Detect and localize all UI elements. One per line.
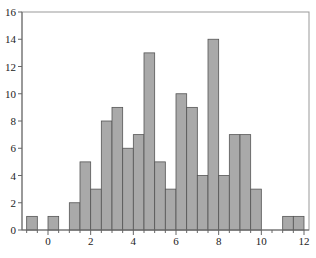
x-tick-label: 8 <box>216 235 222 247</box>
histogram-bar <box>229 135 240 230</box>
histogram-bar <box>112 107 123 230</box>
histogram-bar <box>91 189 102 230</box>
histogram-bar <box>165 189 176 230</box>
y-tick-label: 14 <box>5 33 17 45</box>
y-axis: 0246810121416 <box>5 6 22 236</box>
histogram-bar <box>144 53 155 230</box>
histogram-bar <box>293 216 304 230</box>
histogram-bar <box>80 162 91 230</box>
histogram-bar <box>133 135 144 230</box>
histogram-bar <box>155 162 166 230</box>
histogram-bar <box>283 216 294 230</box>
histogram-chart: 024681012 0246810121416 <box>0 0 316 258</box>
x-tick-label: 2 <box>88 235 94 247</box>
x-axis: 024681012 <box>22 230 310 247</box>
histogram-bars <box>27 39 304 230</box>
histogram-bar <box>69 203 80 230</box>
x-tick-label: 10 <box>256 235 268 247</box>
y-tick-label: 0 <box>11 224 17 236</box>
histogram-bar <box>197 176 208 231</box>
histogram-bar <box>208 39 219 230</box>
histogram-bar <box>251 189 262 230</box>
y-tick-label: 4 <box>11 170 17 182</box>
x-tick-label: 0 <box>45 235 51 247</box>
x-tick-label: 12 <box>299 235 310 247</box>
y-tick-label: 10 <box>5 88 17 100</box>
histogram-bar <box>101 121 112 230</box>
y-tick-label: 12 <box>5 61 16 73</box>
histogram-bar <box>240 135 251 230</box>
histogram-bar <box>187 107 198 230</box>
histogram-bar <box>176 94 187 230</box>
histogram-bar <box>48 216 59 230</box>
y-tick-label: 8 <box>11 115 17 127</box>
histogram-bar <box>27 216 38 230</box>
histogram-bar <box>123 148 134 230</box>
y-tick-label: 2 <box>11 197 17 209</box>
histogram-bar <box>219 176 230 231</box>
y-tick-label: 6 <box>11 142 17 154</box>
y-tick-label: 16 <box>5 6 17 18</box>
x-tick-label: 4 <box>131 235 137 247</box>
x-tick-label: 6 <box>173 235 179 247</box>
